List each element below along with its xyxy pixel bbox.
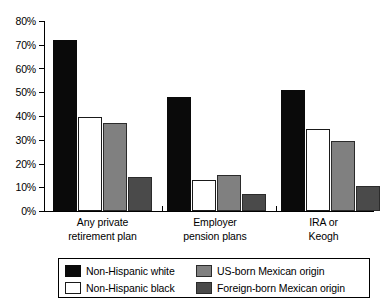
plot-area: 80% 70% 60% 50% 40% 30% 20% 10% 0% bbox=[0, 0, 379, 218]
legend-swatch-icon bbox=[65, 282, 81, 294]
legend-swatch-icon bbox=[196, 282, 212, 294]
bar-non-hispanic-black bbox=[306, 129, 330, 211]
y-tick-label: 20% bbox=[2, 159, 36, 169]
category-label-line: Employer bbox=[160, 216, 270, 230]
legend-entry-us-born-mexican-origin: US-born Mexican origin bbox=[196, 262, 325, 280]
category-label-line: pension plans bbox=[160, 230, 270, 244]
group-separator-tick bbox=[162, 206, 163, 211]
bar-group-any-private-retirement-plan bbox=[53, 21, 153, 211]
y-tick-label: 70% bbox=[2, 40, 36, 50]
group-separator-tick bbox=[276, 206, 277, 211]
chart-legend: Non-Hispanic white Non-Hispanic black US… bbox=[58, 258, 370, 298]
y-tick-label: 10% bbox=[2, 182, 36, 192]
bars-area bbox=[45, 21, 374, 211]
legend-label: Non-Hispanic white bbox=[86, 266, 175, 277]
bar-group-ira-or-keogh bbox=[281, 21, 381, 211]
bar-us-born-mexican-origin bbox=[103, 123, 127, 211]
y-tick-label: 50% bbox=[2, 87, 36, 97]
bar-non-hispanic-white bbox=[281, 90, 305, 211]
legend-label: Foreign-born Mexican origin bbox=[217, 283, 345, 294]
bar-non-hispanic-black bbox=[192, 180, 216, 211]
legend-label: Non-Hispanic black bbox=[86, 283, 175, 294]
bar-us-born-mexican-origin bbox=[217, 175, 241, 211]
bar-foreign-born-mexican-origin bbox=[128, 177, 152, 211]
x-axis-category-labels: Any private retirement plan Employer pen… bbox=[45, 216, 374, 252]
category-label-line: IRA or bbox=[273, 216, 374, 230]
y-tick-label: 80% bbox=[2, 16, 36, 26]
category-label-line: Any private bbox=[45, 216, 160, 230]
category-label-line: retirement plan bbox=[45, 230, 160, 244]
x-axis-line bbox=[44, 211, 374, 212]
legend-entry-foreign-born-mexican-origin: Foreign-born Mexican origin bbox=[196, 279, 345, 297]
category-label-any-private-retirement-plan: Any private retirement plan bbox=[45, 216, 160, 243]
y-tick-label: 60% bbox=[2, 64, 36, 74]
bar-non-hispanic-white bbox=[167, 97, 191, 211]
legend-entry-non-hispanic-white: Non-Hispanic white bbox=[65, 262, 175, 280]
bar-foreign-born-mexican-origin bbox=[356, 186, 380, 211]
category-label-employer-pension-plans: Employer pension plans bbox=[160, 216, 270, 243]
legend-entry-non-hispanic-black: Non-Hispanic black bbox=[65, 279, 175, 297]
bar-foreign-born-mexican-origin bbox=[242, 194, 266, 211]
bar-non-hispanic-white bbox=[53, 40, 77, 211]
bar-group-employer-pension-plans bbox=[167, 21, 267, 211]
y-tick-label: 30% bbox=[2, 135, 36, 145]
category-label-ira-or-keogh: IRA or Keogh bbox=[273, 216, 374, 243]
bar-us-born-mexican-origin bbox=[331, 141, 355, 211]
y-tick-label: 40% bbox=[2, 111, 36, 121]
y-tick-label: 0% bbox=[2, 206, 36, 216]
legend-label: US-born Mexican origin bbox=[217, 266, 325, 277]
y-axis-labels: 80% 70% 60% 50% 40% 30% 20% 10% 0% bbox=[0, 0, 36, 218]
legend-swatch-icon bbox=[65, 265, 81, 277]
category-label-line: Keogh bbox=[273, 230, 374, 244]
bar-non-hispanic-black bbox=[78, 117, 102, 211]
legend-swatch-icon bbox=[196, 265, 212, 277]
